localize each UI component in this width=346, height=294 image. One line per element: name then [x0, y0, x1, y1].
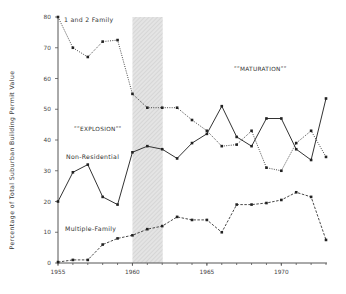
y-tick-label: 50 — [44, 106, 52, 112]
label-multiple-family: Multiple-Family — [65, 225, 116, 232]
x-tick-label: 1960 — [125, 269, 140, 275]
data-point-1-and-2-family — [72, 46, 75, 49]
data-point-non-residential — [325, 97, 328, 100]
data-point-1-and-2-family — [280, 169, 283, 172]
data-point-1-and-2-family — [295, 142, 298, 145]
y-axis-label: Percentage of Total Suburban Building Pe… — [8, 71, 15, 250]
shaded-band — [132, 17, 162, 263]
data-point-1-and-2-family — [116, 39, 119, 42]
y-tick-label: 70 — [44, 45, 52, 51]
line-chart: 010203040506070801955196019651970 — [0, 0, 346, 294]
data-point-non-residential — [280, 117, 283, 120]
data-point-non-residential — [86, 163, 89, 166]
data-point-non-residential — [310, 159, 313, 162]
data-point-1-and-2-family — [310, 129, 313, 132]
annotation-maturation: ʺʺMATURATIONʺʺ — [234, 66, 287, 72]
data-point-1-and-2-family — [265, 166, 268, 169]
data-point-non-residential — [101, 196, 104, 199]
data-point-multiple-family — [57, 261, 60, 264]
data-point-non-residential — [146, 145, 149, 148]
data-point-multiple-family — [325, 239, 328, 242]
y-tick-label: 40 — [44, 137, 52, 143]
data-point-non-residential — [131, 151, 134, 154]
x-tick-label: 1970 — [274, 269, 289, 275]
data-point-1-and-2-family — [57, 16, 60, 19]
data-point-non-residential — [116, 203, 119, 206]
data-point-multiple-family — [235, 203, 238, 206]
data-point-multiple-family — [116, 237, 119, 240]
data-point-non-residential — [265, 117, 268, 120]
data-point-multiple-family — [176, 216, 179, 219]
data-point-non-residential — [72, 171, 75, 174]
data-point-non-residential — [235, 136, 238, 139]
data-point-1-and-2-family — [161, 106, 164, 109]
data-point-non-residential — [220, 105, 223, 108]
data-point-multiple-family — [295, 191, 298, 194]
data-point-multiple-family — [86, 259, 89, 262]
y-tick-label: 30 — [44, 168, 52, 174]
data-point-1-and-2-family — [101, 40, 104, 43]
data-point-multiple-family — [131, 234, 134, 237]
data-point-1-and-2-family — [220, 145, 223, 148]
explosion-shaded-band — [132, 17, 162, 263]
y-tick-label: 20 — [44, 199, 52, 205]
y-tick-label: 0 — [47, 260, 51, 266]
series-line-non-residential — [58, 99, 326, 205]
label-non-residential: Non-Residential — [66, 153, 119, 160]
data-point-multiple-family — [146, 228, 149, 231]
series-line-1-and-2-family — [58, 17, 326, 171]
data-point-1-and-2-family — [250, 129, 253, 132]
data-point-multiple-family — [250, 203, 253, 206]
data-point-1-and-2-family — [86, 56, 89, 59]
data-point-1-and-2-family — [235, 143, 238, 146]
data-point-1-and-2-family — [176, 106, 179, 109]
y-tick-label: 60 — [44, 76, 52, 82]
y-tick-label: 80 — [44, 14, 52, 20]
data-point-multiple-family — [280, 199, 283, 202]
data-point-1-and-2-family — [131, 93, 134, 96]
x-tick-label: 1955 — [51, 269, 66, 275]
data-point-1-and-2-family — [325, 156, 328, 159]
data-point-non-residential — [206, 133, 209, 136]
data-point-multiple-family — [220, 231, 223, 234]
x-tick-label: 1965 — [200, 269, 215, 275]
data-point-multiple-family — [72, 259, 75, 262]
data-point-non-residential — [57, 200, 60, 203]
data-point-non-residential — [161, 148, 164, 151]
data-point-non-residential — [191, 142, 194, 145]
data-point-1-and-2-family — [146, 106, 149, 109]
data-point-non-residential — [176, 157, 179, 160]
data-point-multiple-family — [206, 219, 209, 222]
data-point-multiple-family — [265, 202, 268, 205]
y-tick-label: 10 — [44, 229, 52, 235]
axes: 010203040506070801955196019651970 — [44, 14, 327, 275]
y-axis-label-container: Percentage of Total Suburban Building Pe… — [0, 60, 22, 260]
data-point-multiple-family — [101, 243, 104, 246]
data-point-non-residential — [250, 145, 253, 148]
data-point-non-residential — [295, 148, 298, 151]
data-point-1-and-2-family — [191, 119, 194, 122]
data-point-multiple-family — [161, 225, 164, 228]
data-point-multiple-family — [191, 219, 194, 222]
data-point-multiple-family — [310, 196, 313, 199]
label-one-two-family: 1 and 2 Family — [64, 16, 114, 23]
annotation-explosion: ʺʺEXPLOSIONʺʺ — [74, 126, 122, 132]
